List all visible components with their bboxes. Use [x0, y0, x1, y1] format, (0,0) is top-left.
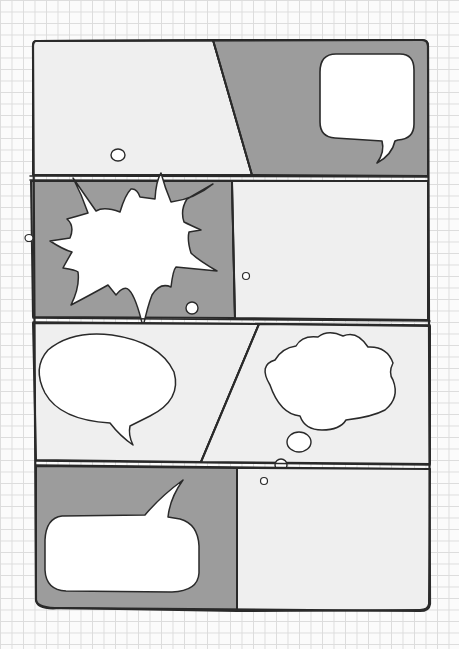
panel-4-right — [237, 468, 430, 611]
tiny-dot — [243, 273, 250, 280]
thought-dot — [111, 149, 125, 161]
panel-2-right — [232, 181, 428, 320]
burst-side-dot — [25, 235, 33, 242]
tiny-dot — [261, 478, 268, 485]
gutter-line — [30, 176, 428, 177]
small-dot — [186, 302, 198, 314]
comic-page — [0, 0, 459, 649]
thought-dot-large — [287, 432, 311, 452]
